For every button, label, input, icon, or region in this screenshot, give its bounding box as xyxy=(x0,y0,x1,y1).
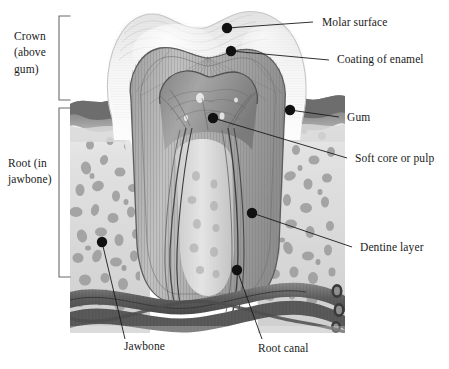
bracket-label-crown-line1: Crown xyxy=(14,28,66,44)
dot-dentine-layer xyxy=(247,208,257,218)
dot-soft-core-or-pulp xyxy=(208,113,218,123)
dot-root-canal xyxy=(232,265,242,275)
bracket-label-crown: Crown (above gum) xyxy=(14,28,66,77)
dot-jawbone xyxy=(97,237,107,247)
root-core xyxy=(175,139,234,296)
callout-label-gum: Gum xyxy=(347,111,370,123)
bracket-label-crown-line2: (above xyxy=(14,44,66,60)
root-bracket-shape xyxy=(59,108,70,277)
callout-label-coating-of-enamel: Coating of enamel xyxy=(337,53,424,65)
bracket-label-root-line2: jawbone) xyxy=(8,171,64,187)
figure-root: Crown (above gum) Root (in jawbone) Mola… xyxy=(0,0,449,369)
bracket-label-crown-line3: gum) xyxy=(14,61,66,77)
callout-label-molar-surface: Molar surface xyxy=(322,16,387,28)
callout-label-dentine-layer: Dentine layer xyxy=(360,241,424,253)
callout-label-jawbone: Jawbone xyxy=(124,340,165,352)
dot-gum xyxy=(285,105,295,115)
callout-label-root-canal: Root canal xyxy=(258,342,309,354)
dot-molar-surface xyxy=(222,23,232,33)
bracket-label-root: Root (in jawbone) xyxy=(8,155,64,188)
dot-coating-of-enamel xyxy=(226,46,236,56)
callout-label-soft-core-or-pulp: Soft core or pulp xyxy=(355,152,434,164)
bracket-label-root-line1: Root (in xyxy=(8,155,64,171)
tooth-cross-section-illustration xyxy=(70,10,346,333)
